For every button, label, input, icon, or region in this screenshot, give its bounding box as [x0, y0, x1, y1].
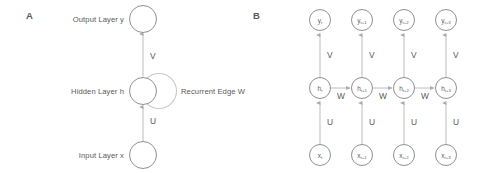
- panel-b-weight-v-label-t3: V: [453, 50, 459, 60]
- panel-b-letter: B: [253, 10, 260, 21]
- panel-a-output-layer-label: Output Layer y: [73, 15, 124, 24]
- panel-b-weight-v-label-t: V: [327, 50, 333, 60]
- panel-a-weight-u-label: U: [150, 116, 156, 126]
- panel-b-weight-u-label-t2: U: [411, 117, 417, 127]
- panel-b-weight-w-label-3: W: [421, 91, 429, 101]
- panel-b-weight-w-label-1: W: [337, 91, 345, 101]
- panel-b-weight-u-label-t3: U: [453, 117, 459, 127]
- panel-a-recurrent-edge-label: Recurrent Edge W: [181, 87, 246, 96]
- panel-a: A Output Layer y Hidden Layer h Input La…: [26, 6, 246, 169]
- panel-b-weight-w-label-2: W: [379, 91, 387, 101]
- panel-a-input-node: [130, 142, 157, 169]
- rnn-figure: A Output Layer y Hidden Layer h Input La…: [0, 0, 484, 173]
- panel-a-output-node: [130, 6, 157, 33]
- panel-b-weight-v-label-t2: V: [411, 50, 417, 60]
- panel-a-input-layer-label: Input Layer x: [79, 151, 124, 160]
- panel-a-letter: A: [26, 10, 33, 21]
- panel-a-hidden-node: [130, 78, 157, 105]
- rnn-diagram-canvas: A Output Layer y Hidden Layer h Input La…: [0, 0, 484, 173]
- panel-a-weight-v-label: V: [150, 51, 156, 61]
- panel-a-hidden-layer-label: Hidden Layer h: [71, 87, 124, 96]
- panel-b-weight-u-label-t1: U: [369, 117, 375, 127]
- panel-b: B: [253, 10, 459, 166]
- panel-b-edges: [320, 35, 446, 145]
- panel-b-weight-v-label-t1: V: [369, 50, 375, 60]
- panel-b-weight-u-label-t: U: [327, 117, 333, 127]
